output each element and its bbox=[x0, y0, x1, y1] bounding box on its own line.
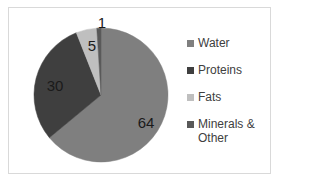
legend-item-water: Water bbox=[187, 36, 267, 50]
legend-swatch-fats bbox=[187, 94, 194, 101]
legend-label: Proteins bbox=[198, 63, 242, 77]
legend-label: Water bbox=[198, 36, 230, 50]
data-label: 30 bbox=[47, 77, 64, 94]
legend-swatch-minerals-other bbox=[187, 121, 194, 128]
legend-swatch-water bbox=[187, 40, 194, 47]
data-label: 1 bbox=[98, 14, 106, 31]
data-label: 5 bbox=[88, 37, 96, 54]
legend-item-proteins: Proteins bbox=[187, 63, 267, 77]
data-label: 64 bbox=[138, 114, 155, 131]
legend-item-minerals-other: Minerals & Other bbox=[187, 117, 267, 145]
legend-label: Fats bbox=[198, 90, 221, 104]
legend: Water Proteins Fats Minerals & Other bbox=[187, 36, 267, 158]
legend-label: Minerals & Other bbox=[198, 117, 262, 145]
legend-swatch-proteins bbox=[187, 67, 194, 74]
legend-item-fats: Fats bbox=[187, 90, 267, 104]
